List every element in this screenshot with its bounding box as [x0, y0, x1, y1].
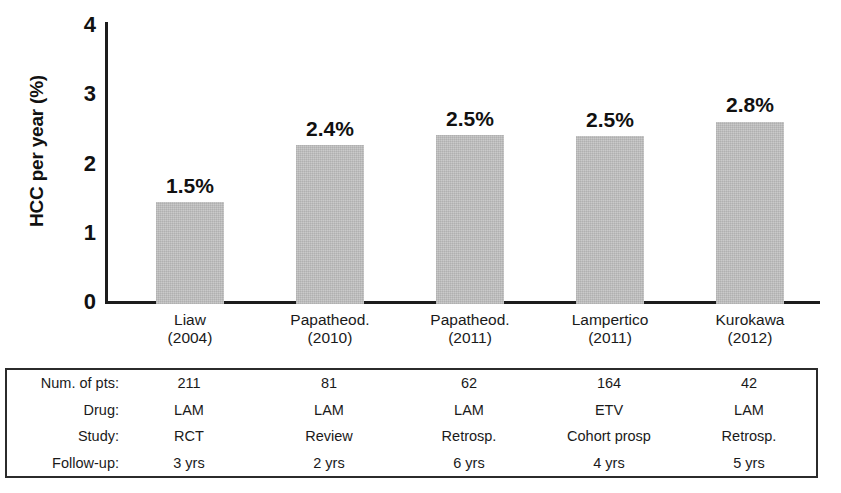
row-header-num-of-pts: Num. of pts:: [7, 370, 119, 397]
table-row: Follow-up: 3 yrs 2 yrs 6 yrs 4 yrs 5 yrs: [7, 450, 819, 477]
bar-papatheod-2010: 2.4%: [296, 145, 364, 304]
bar-group-papatheod-2010: 2.4% Papatheod. (2010): [296, 3, 364, 360]
category-name-papatheod-2011: Papatheod.: [400, 311, 540, 329]
study-details-grid: Num. of pts: 211 81 62 164 42 Drug: LAM …: [7, 370, 819, 476]
cell-num-pts-liaw: 211: [119, 370, 259, 397]
cell-study-lampertico: Cohort prosp: [539, 423, 679, 450]
y-tick-label-2: 2: [70, 153, 96, 175]
category-label-liaw-2004: Liaw (2004): [120, 311, 260, 347]
bar-lampertico-2011: 2.5%: [576, 136, 644, 304]
category-name-papatheod-2010: Papatheod.: [260, 311, 400, 329]
cell-num-pts-kurokawa: 42: [679, 370, 819, 397]
bar-value-lampertico-2011: 2.5%: [550, 108, 670, 132]
bar-value-kurokawa-2012: 2.8%: [690, 93, 810, 117]
cell-study-kurokawa: Retrosp.: [679, 423, 819, 450]
cell-study-papatheod-2010: Review: [259, 423, 399, 450]
bar-group-kurokawa-2012: 2.8% Kurokawa (2012): [716, 3, 784, 360]
y-axis-title: HCC per year (%): [26, 26, 48, 276]
table-row: Drug: LAM LAM LAM ETV LAM: [7, 397, 819, 424]
cell-study-liaw: RCT: [119, 423, 259, 450]
cell-drug-papatheod-2010: LAM: [259, 397, 399, 424]
bar-group-papatheod-2011: 2.5% Papatheod. (2011): [436, 3, 504, 360]
cell-drug-papatheod-2011: LAM: [399, 397, 539, 424]
category-label-lampertico-2011: Lampertico (2011): [540, 311, 680, 347]
row-header-follow-up: Follow-up:: [7, 450, 119, 477]
cell-follow-up-papatheod-2011: 6 yrs: [399, 450, 539, 477]
cell-num-pts-papatheod-2010: 81: [259, 370, 399, 397]
cell-num-pts-lampertico: 164: [539, 370, 679, 397]
y-tick-label-0: 0: [70, 291, 96, 313]
category-year-papatheod-2011: (2011): [400, 329, 540, 347]
table-row: Study: RCT Review Retrosp. Cohort prosp …: [7, 423, 819, 450]
category-label-kurokawa-2012: Kurokawa (2012): [680, 311, 820, 347]
study-details-table: Num. of pts: 211 81 62 164 42 Drug: LAM …: [5, 368, 818, 478]
category-label-papatheod-2010: Papatheod. (2010): [260, 311, 400, 347]
category-year-liaw: (2004): [120, 329, 260, 347]
y-tick-label-1: 1: [70, 222, 96, 244]
y-tick-label-4: 4: [70, 14, 96, 36]
bar-group-lampertico-2011: 2.5% Lampertico (2011): [576, 3, 644, 360]
y-axis-ticks: 4 3 2 1 0: [62, 0, 96, 320]
category-label-papatheod-2011: Papatheod. (2011): [400, 311, 540, 347]
category-name-liaw: Liaw: [120, 311, 260, 329]
cell-num-pts-papatheod-2011: 62: [399, 370, 539, 397]
bar-value-papatheod-2010: 2.4%: [270, 117, 390, 141]
y-tick-label-3: 3: [70, 83, 96, 105]
category-year-kurokawa: (2012): [680, 329, 820, 347]
cell-drug-liaw: LAM: [119, 397, 259, 424]
y-axis-line: [105, 22, 108, 304]
category-name-kurokawa: Kurokawa: [680, 311, 820, 329]
cell-drug-kurokawa: LAM: [679, 397, 819, 424]
bar-chart-plot-area: 4 3 2 1 0 HCC per year (%) 1.5% Liaw (20…: [0, 0, 841, 360]
bar-kurokawa-2012: 2.8%: [716, 122, 784, 304]
cell-drug-lampertico: ETV: [539, 397, 679, 424]
bar-value-papatheod-2011: 2.5%: [410, 107, 530, 131]
bar-papatheod-2011: 2.5%: [436, 135, 504, 304]
bar-liaw-2004: 1.5%: [156, 202, 224, 304]
cell-study-papatheod-2011: Retrosp.: [399, 423, 539, 450]
category-name-lampertico: Lampertico: [540, 311, 680, 329]
cell-follow-up-kurokawa: 5 yrs: [679, 450, 819, 477]
row-header-drug: Drug:: [7, 397, 119, 424]
row-header-study: Study:: [7, 423, 119, 450]
category-year-papatheod-2010: (2010): [260, 329, 400, 347]
bar-value-liaw-2004: 1.5%: [130, 174, 250, 198]
category-year-lampertico: (2011): [540, 329, 680, 347]
bar-group-liaw-2004: 1.5% Liaw (2004): [156, 3, 224, 360]
cell-follow-up-papatheod-2010: 2 yrs: [259, 450, 399, 477]
hcc-per-year-figure: 4 3 2 1 0 HCC per year (%) 1.5% Liaw (20…: [0, 0, 841, 493]
cell-follow-up-lampertico: 4 yrs: [539, 450, 679, 477]
table-row: Num. of pts: 211 81 62 164 42: [7, 370, 819, 397]
cell-follow-up-liaw: 3 yrs: [119, 450, 259, 477]
